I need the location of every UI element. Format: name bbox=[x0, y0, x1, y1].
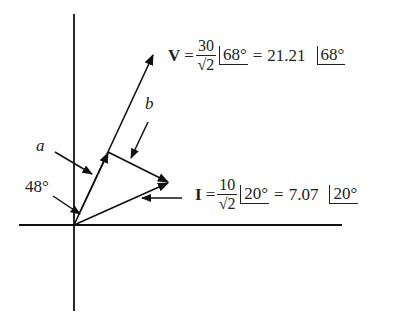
current-angle-1: 20° bbox=[240, 185, 269, 204]
voltage-denominator: √2 bbox=[197, 56, 214, 73]
current-phasor bbox=[74, 183, 168, 225]
current-equation: I = 10 √2 20° = 7.07 20° bbox=[195, 177, 358, 212]
voltage-magnitude: 21.21 bbox=[267, 46, 305, 66]
voltage-equation: V = 30 √2 68° = 21.21 68° bbox=[168, 38, 345, 73]
voltage-angle-2: 68° bbox=[317, 46, 346, 65]
label-angle-48: 48° bbox=[25, 177, 49, 197]
component-a-arrow bbox=[80, 153, 108, 212]
label-a: a bbox=[36, 136, 45, 156]
current-numerator: 10 bbox=[217, 177, 237, 195]
label-b: b bbox=[145, 94, 154, 114]
current-fraction: 10 √2 bbox=[217, 177, 237, 212]
component-b-arrow bbox=[108, 152, 168, 182]
current-denominator: √2 bbox=[219, 195, 236, 212]
current-magnitude: 7.07 bbox=[289, 185, 319, 205]
voltage-angle-1: 68° bbox=[219, 46, 248, 65]
voltage-equals-2: = bbox=[253, 46, 263, 66]
current-angle-2: 20° bbox=[329, 185, 358, 204]
current-equals: = bbox=[206, 185, 216, 205]
voltage-equals: = bbox=[184, 46, 194, 66]
pointer-b bbox=[131, 122, 148, 158]
current-symbol: I bbox=[195, 185, 202, 205]
voltage-fraction: 30 √2 bbox=[196, 38, 216, 73]
voltage-numerator: 30 bbox=[196, 38, 216, 56]
current-equals-2: = bbox=[274, 185, 284, 205]
voltage-symbol: V bbox=[168, 46, 180, 66]
pointer-48deg bbox=[53, 196, 80, 214]
